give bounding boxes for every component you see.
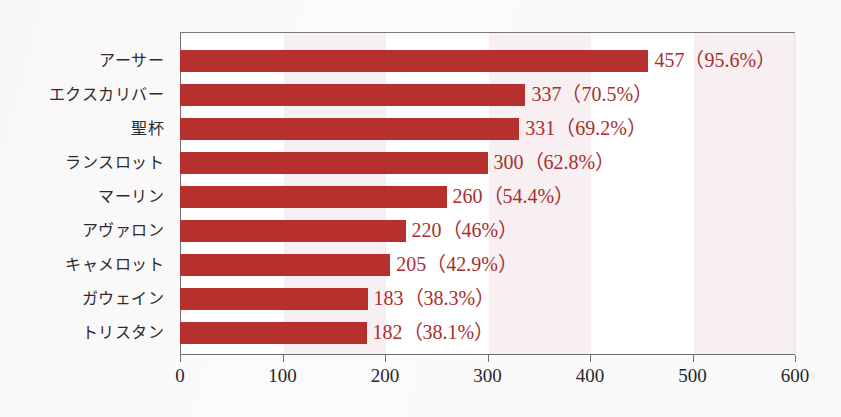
- category-label: アヴァロン: [0, 214, 172, 248]
- bar: [180, 322, 367, 344]
- category-label: キャメロット: [0, 248, 172, 282]
- bar-value-label: 300（62.8%）: [494, 148, 616, 176]
- bar-series: 457（95.6%）337（70.5%）331（69.2%）300（62.8%）…: [180, 32, 795, 355]
- category-label: 聖杯: [0, 112, 172, 146]
- x-tick-label: 300: [473, 364, 502, 388]
- x-tick-label: 600: [781, 364, 810, 388]
- category-label: エクスカリバー: [0, 78, 172, 112]
- x-tick-mark: [488, 355, 489, 362]
- bar-value-label: 183（38.3%）: [374, 284, 496, 312]
- bar-value-label: 260（54.4%）: [453, 182, 575, 210]
- category-label: トリスタン: [0, 316, 172, 350]
- bar: [180, 254, 390, 276]
- bar: [180, 220, 406, 242]
- x-tick-label: 400: [576, 364, 605, 388]
- bar: [180, 50, 648, 72]
- bar-row: 183（38.3%）: [180, 282, 795, 316]
- x-axis: 0100200300400500600: [180, 355, 795, 400]
- bar: [180, 152, 488, 174]
- x-tick-mark: [693, 355, 694, 362]
- bar: [180, 288, 368, 310]
- x-tick-label: 0: [175, 364, 185, 388]
- category-label: ガウェイン: [0, 282, 172, 316]
- x-tick-mark: [283, 355, 284, 362]
- x-tick-mark: [590, 355, 591, 362]
- bar: [180, 118, 519, 140]
- x-tick-mark: [385, 355, 386, 362]
- bar: [180, 186, 447, 208]
- bar-row: 220（46%）: [180, 214, 795, 248]
- bar-value-label: 331（69.2%）: [525, 114, 647, 142]
- bar-row: 331（69.2%）: [180, 112, 795, 146]
- bar-chart: アーサーエクスカリバー聖杯ランスロットマーリンアヴァロンキャメロットガウェイント…: [0, 0, 841, 417]
- bar-value-label: 220（46%）: [412, 216, 519, 244]
- x-tick-label: 200: [371, 364, 400, 388]
- bar-value-label: 205（42.9%）: [396, 250, 518, 278]
- x-tick-label: 500: [678, 364, 707, 388]
- bar-row: 260（54.4%）: [180, 180, 795, 214]
- x-tick-label: 100: [268, 364, 297, 388]
- bar: [180, 84, 525, 106]
- bar-row: 337（70.5%）: [180, 78, 795, 112]
- category-label: マーリン: [0, 180, 172, 214]
- category-label: アーサー: [0, 44, 172, 78]
- x-tick-mark: [180, 355, 181, 362]
- bar-row: 300（62.8%）: [180, 146, 795, 180]
- bar-value-label: 337（70.5%）: [531, 80, 653, 108]
- x-tick-mark: [795, 355, 796, 362]
- bar-row: 457（95.6%）: [180, 44, 795, 78]
- bar-row: 205（42.9%）: [180, 248, 795, 282]
- bar-value-label: 457（95.6%）: [654, 46, 776, 74]
- bar-row: 182（38.1%）: [180, 316, 795, 350]
- bar-value-label: 182（38.1%）: [373, 318, 495, 346]
- category-label: ランスロット: [0, 146, 172, 180]
- category-axis-labels: アーサーエクスカリバー聖杯ランスロットマーリンアヴァロンキャメロットガウェイント…: [0, 32, 172, 355]
